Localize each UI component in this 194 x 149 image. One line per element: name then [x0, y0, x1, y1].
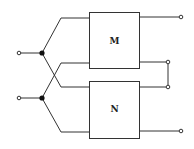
terminal-n-output-top — [166, 85, 170, 89]
terminal-input-top — [17, 51, 21, 55]
circuit-diagram: M N — [0, 0, 194, 149]
block-n-label: N — [110, 104, 118, 114]
wire-bottom-junction-to-n-bottom — [42, 98, 90, 132]
block-m-label: M — [110, 36, 120, 46]
terminal-m-output-bottom — [166, 60, 170, 64]
wire-bottom-junction-to-m-bottom — [42, 63, 90, 98]
terminal-n-output-bottom — [179, 129, 183, 133]
wire-top-junction-to-m-top — [42, 18, 90, 53]
terminal-input-bottom — [17, 96, 21, 100]
junction-bottom — [39, 95, 44, 100]
terminal-m-output-top — [179, 15, 183, 19]
wire-top-junction-to-n-top — [42, 53, 90, 87]
junction-top — [39, 50, 44, 55]
